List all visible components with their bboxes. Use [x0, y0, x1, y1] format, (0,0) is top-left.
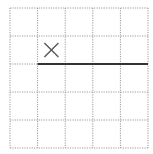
grid-lines — [10, 8, 148, 148]
grid-board — [0, 0, 153, 154]
x-mark-icon — [44, 43, 58, 57]
cell-marks — [44, 43, 58, 57]
